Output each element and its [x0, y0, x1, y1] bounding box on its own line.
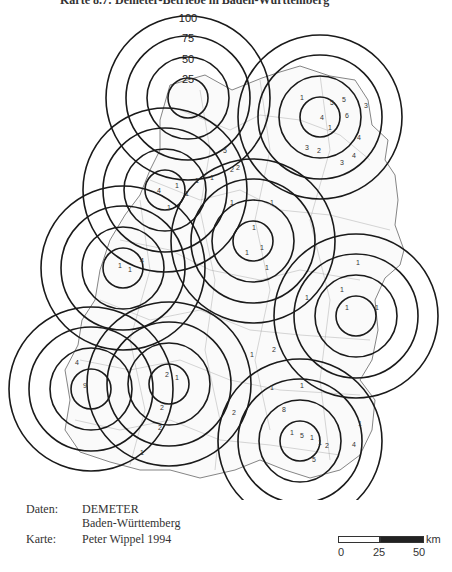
farm-count: 3	[364, 102, 368, 109]
farm-count: 1	[175, 182, 179, 189]
farm-count: 1	[305, 294, 309, 301]
farm-count: 4	[352, 441, 356, 448]
farm-count: 1	[185, 190, 189, 197]
farm-count: 2	[317, 147, 321, 154]
legend-data-label: Daten:	[26, 502, 82, 530]
farm-count: 9	[83, 382, 87, 389]
legend-data-region: Baden-Württemberg	[82, 516, 180, 530]
farm-count: 1	[128, 266, 132, 273]
scale-segment-black	[380, 536, 424, 543]
farm-count: 1	[300, 94, 304, 101]
scale-unit: km	[426, 533, 441, 545]
farm-count: 1	[118, 262, 122, 269]
farm-count: 8	[282, 406, 286, 413]
farm-count: 4	[75, 359, 79, 366]
scale-tick-25: 25	[373, 546, 385, 558]
farm-count: 1	[167, 204, 171, 211]
ring-label-25: 25	[182, 73, 194, 85]
farm-count: 6	[345, 112, 349, 119]
farm-count: 2	[165, 371, 169, 378]
farm-count: 5	[330, 99, 334, 106]
farm-count: 1	[252, 224, 256, 231]
farm-count: 2	[272, 346, 276, 353]
farm-count: 2	[160, 404, 164, 411]
farm-count: 1	[300, 382, 304, 389]
ring-label-50: 50	[182, 53, 194, 65]
farm-count: 1	[310, 434, 314, 441]
scale-bar: km 0 25 50	[338, 533, 441, 559]
farm-count: 1	[270, 384, 274, 391]
farm-count: 2	[230, 166, 234, 173]
ring-label-100: 100	[179, 12, 197, 24]
farm-count: 3	[340, 159, 344, 166]
legend-map-row: Karte: Peter Wippel 1994	[26, 532, 180, 547]
legend-data-source: DEMETER	[82, 502, 180, 516]
farm-count: 1	[265, 264, 269, 271]
farm-count: 1	[140, 449, 144, 456]
farm-count: 1	[318, 439, 322, 446]
legend-map-label: Karte:	[26, 532, 82, 547]
farm-count: 5	[223, 147, 227, 154]
farm-count: 1	[230, 199, 234, 206]
map-legend: Daten: DEMETER Baden-Württemberg Karte: …	[26, 502, 180, 549]
farm-count: 1	[340, 286, 344, 293]
farm-count: 2	[232, 409, 236, 416]
farm-count: 4	[157, 187, 161, 194]
ring-distance-labels: 100 75 50 25	[179, 12, 197, 85]
scale-tick-50: 50	[413, 546, 425, 558]
farm-count: 2	[236, 164, 240, 171]
farm-count: 1	[358, 420, 362, 427]
farm-count: 1	[375, 304, 379, 311]
farm-count: 3	[305, 144, 309, 151]
farm-count: 1	[175, 374, 179, 381]
farm-count: 1	[328, 124, 332, 131]
farm-count: 1	[270, 199, 274, 206]
farm-count: 4	[357, 134, 361, 141]
farm-count: 1	[260, 244, 264, 251]
farm-count: 4	[140, 257, 144, 264]
farm-count: 4	[352, 152, 356, 159]
map-canvas: 5641132344355221111411111111141111194212…	[0, 0, 452, 500]
farm-count: 1	[210, 174, 214, 181]
scale-segment-white	[338, 536, 380, 543]
farm-count: 4	[320, 114, 324, 121]
farm-count: 1	[345, 304, 349, 311]
farm-count: 2	[325, 442, 329, 449]
farm-count: 5	[342, 96, 346, 103]
farm-count: 5	[300, 432, 304, 439]
legend-map-author: Peter Wippel 1994	[82, 532, 171, 546]
farm-count: 1	[250, 351, 254, 358]
farm-count: 1	[195, 177, 199, 184]
farm-count: 1	[290, 429, 294, 436]
ring-label-75: 75	[182, 32, 194, 44]
farm-count: 2	[158, 424, 162, 431]
farm-count: 5	[312, 456, 316, 463]
farm-count: 1	[245, 249, 249, 256]
legend-data-row: Daten: DEMETER Baden-Württemberg	[26, 502, 180, 530]
scale-tick-0: 0	[338, 546, 344, 558]
farm-count: 1	[356, 259, 360, 266]
